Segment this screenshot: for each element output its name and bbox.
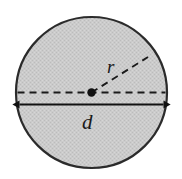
circle-diagram-figure: r d	[0, 0, 182, 179]
circle-diagram-canvas: r d	[0, 0, 182, 179]
center-dot	[87, 88, 95, 96]
radius-label: r	[107, 56, 115, 77]
diameter-label: d	[82, 110, 93, 134]
